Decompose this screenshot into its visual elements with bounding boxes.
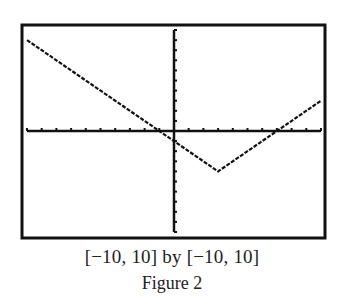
figure-label: Figure 2 (0, 273, 344, 294)
calculator-screen (0, 0, 344, 245)
window-caption: [−10, 10] by [−10, 10] (0, 246, 344, 268)
figure: [−10, 10] by [−10, 10] Figure 2 (0, 0, 344, 306)
